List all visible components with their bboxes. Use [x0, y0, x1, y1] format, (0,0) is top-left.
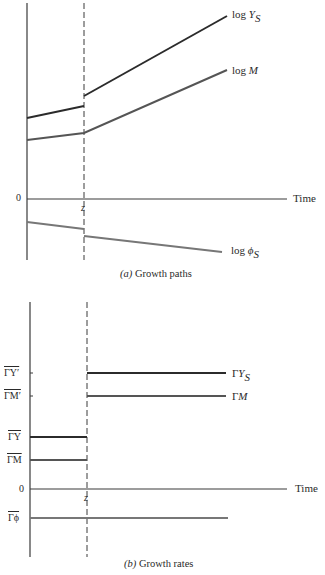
tick-label-gphi: Γϕ — [8, 513, 19, 523]
panel-a-plot — [27, 3, 287, 260]
panel-b-time-label: Time — [295, 483, 318, 494]
panel-a-time-label: Time — [293, 193, 316, 204]
panel-a-caption: (a) Growth paths — [120, 268, 192, 279]
tick-label-gy: ΓY — [8, 432, 21, 442]
label-log-m: log M — [232, 65, 258, 76]
log-phi-line-pre — [27, 222, 84, 229]
label-log-ys: log YS — [232, 9, 260, 20]
log-ys-line-pre — [27, 106, 84, 118]
tick-label-gy-prime: ΓY′ — [4, 368, 19, 378]
label-log-phi: log ϕS — [231, 245, 259, 256]
panel-b-zero-label: 0 — [19, 484, 24, 494]
tick-label-gm-prime: ΓM′ — [4, 391, 21, 401]
panel-a-zero-label: 0 — [16, 193, 21, 203]
panel-b-caption: (b) Growth rates — [124, 558, 193, 569]
label-gamma-m: ΓM — [232, 391, 248, 402]
panel-b-plot — [30, 302, 287, 557]
tick-label-gm: ΓM — [7, 455, 22, 465]
label-gamma-ys: ΓYS — [232, 368, 250, 379]
log-ys-line-post — [84, 16, 227, 96]
log-m-line — [27, 70, 227, 140]
panel-a-z-label: z — [81, 203, 85, 213]
chart-canvas — [0, 0, 325, 575]
log-phi-line-post — [84, 236, 222, 252]
panel-b-z-label: z — [84, 493, 88, 503]
